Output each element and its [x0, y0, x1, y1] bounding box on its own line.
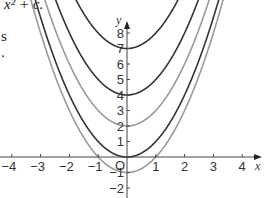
y-tick-label: 1: [117, 134, 124, 149]
parabola-curve: [0, 0, 257, 95]
x-tick-label: 2: [181, 159, 188, 174]
parabola-chart: −4−3−2−11234−2−112345678Oxy: [0, 0, 264, 198]
x-axis-label: x: [254, 159, 261, 173]
y-tick-label: 6: [117, 57, 124, 72]
x-tick-label: −2: [59, 159, 74, 174]
x-tick-label: 3: [210, 159, 217, 174]
y-tick-label: 5: [117, 72, 124, 87]
y-tick-label: 4: [117, 88, 124, 103]
y-tick-label: −2: [109, 181, 124, 196]
x-tick-label: −3: [30, 159, 45, 174]
y-tick-label: 8: [117, 26, 124, 41]
origin-label: O: [115, 158, 125, 173]
y-axis-label: y: [115, 13, 122, 27]
y-tick-label: 2: [117, 119, 124, 134]
x-tick-label: 4: [239, 159, 246, 174]
x-tick-label: −1: [88, 159, 103, 174]
x-tick-label: 1: [152, 159, 159, 174]
y-axis-arrow-icon: [124, 21, 130, 29]
y-tick-label: 3: [117, 103, 124, 118]
y-tick-label: 7: [117, 41, 124, 56]
x-tick-label: −4: [1, 159, 16, 174]
